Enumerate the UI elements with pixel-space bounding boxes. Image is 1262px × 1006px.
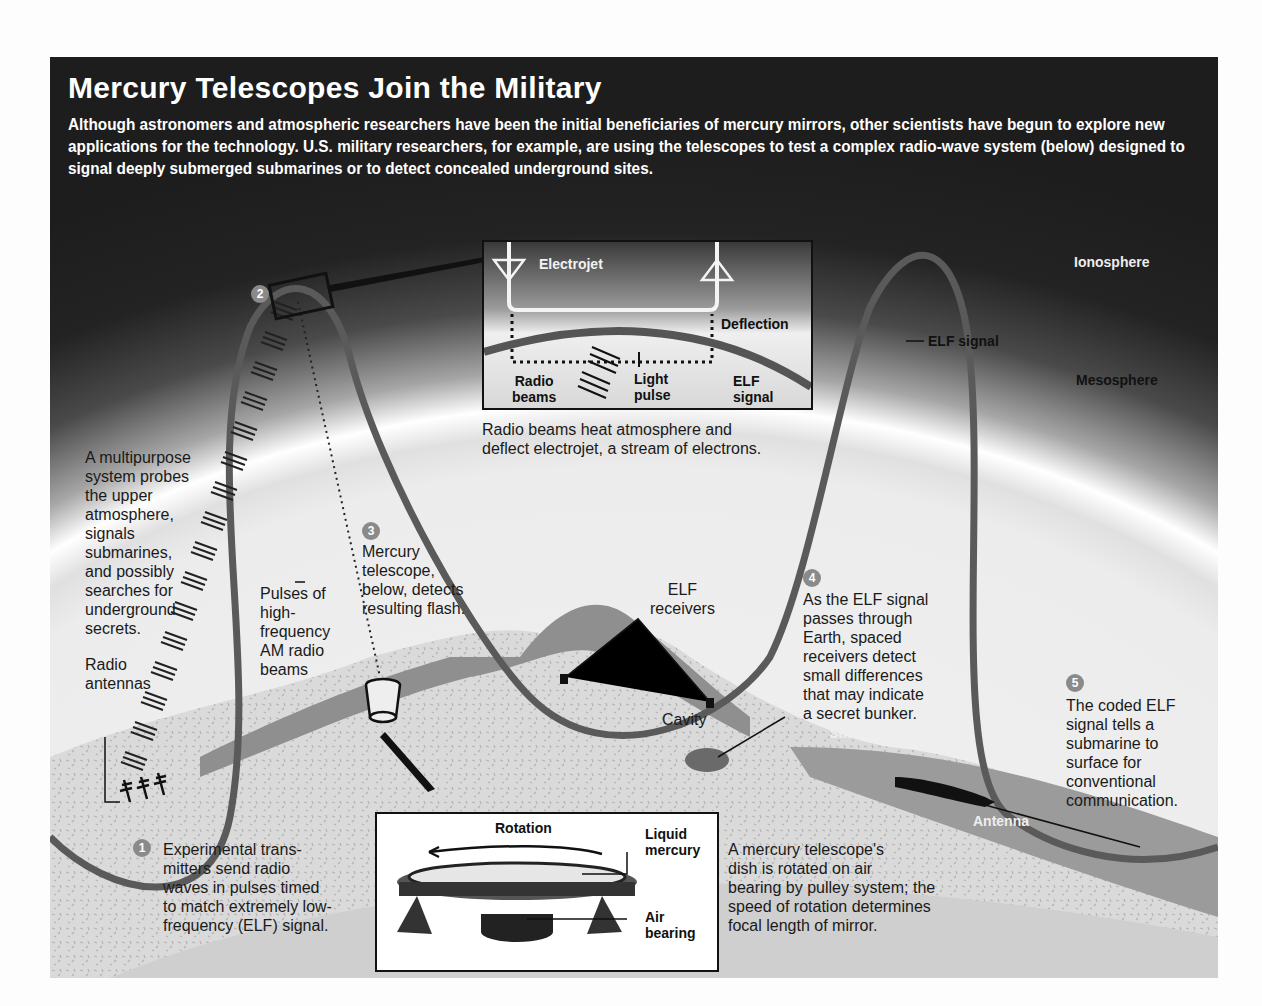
elf-signal-label: ELF signal [928, 333, 999, 349]
diagram-panel: Mercury Telescopes Join the Military Alt… [50, 57, 1218, 978]
elf-receiver-2 [706, 698, 714, 708]
antenna-label: Antenna [973, 813, 1029, 829]
intro-paragraph: Although astronomers and atmospheric res… [68, 113, 1198, 179]
multipurpose-label: A multipurpose system probes the upper a… [85, 448, 191, 638]
light-pulse-label: Light pulse [634, 371, 671, 403]
telescope-icon [366, 679, 400, 722]
telescope-inset: Rotation Liquid mercury Air bearing [375, 812, 719, 972]
elf-signal-inset-label: ELF signal [733, 373, 773, 405]
step-4-text: As the ELF signal passes through Earth, … [803, 590, 928, 723]
cavity-bunker [685, 748, 729, 772]
step-badge-2: 2 [251, 285, 269, 303]
step-badge-1: 1 [133, 839, 151, 857]
deflection-label: Deflection [721, 316, 789, 332]
air-bearing-label: Air bearing [645, 909, 696, 941]
pulses-label: Pulses of high- frequency AM radio beams [260, 584, 330, 679]
electrojet-caption: Radio beams heat atmosphere and deflect … [482, 420, 761, 458]
radio-antennas-label: Radio antennas [85, 655, 151, 693]
electrojet-label: Electrojet [539, 256, 603, 272]
liquid-mercury-label: Liquid mercury [645, 826, 700, 858]
step-3-text: Mercury telescope, below, detects result… [362, 542, 465, 618]
elf-receivers-label: ELF receivers [650, 580, 715, 618]
page-title: Mercury Telescopes Join the Military [68, 71, 602, 105]
submarine-label: Submarine [829, 725, 901, 741]
elf-receiver-1 [560, 674, 568, 684]
ionosphere-label: Ionosphere [1074, 254, 1149, 270]
step-badge-3: 3 [362, 522, 380, 540]
cavity-label: Cavity [662, 710, 706, 729]
mesosphere-label: Mesosphere [1076, 372, 1158, 388]
radio-beams-label: Radio beams [512, 373, 556, 405]
electrojet-inset: Electrojet Deflection Radio beams Light … [482, 240, 813, 410]
rotation-label: Rotation [495, 820, 552, 836]
step-5-text: The coded ELF signal tells a submarine t… [1066, 696, 1178, 810]
telescope-caption: A mercury telescope's dish is rotated on… [728, 840, 935, 935]
step-1-text: Experimental trans- mitters send radio w… [163, 840, 332, 935]
step-badge-4: 4 [803, 569, 821, 587]
step-badge-5: 5 [1066, 674, 1084, 692]
